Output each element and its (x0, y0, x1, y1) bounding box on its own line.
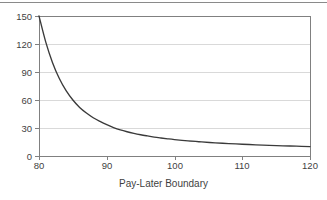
y-tick-marks-group (35, 17, 39, 157)
x-tick-label-110: 110 (227, 160, 257, 171)
x-axis-title: Pay-Later Boundary (0, 178, 327, 189)
y-tick-label-120: 120 (6, 39, 32, 50)
x-tick-label-100: 100 (160, 160, 190, 171)
x-tick-label-90: 90 (92, 160, 122, 171)
x-tick-label-120: 120 (295, 160, 325, 171)
y-tick-label-60: 60 (6, 95, 32, 106)
y-tick-label-30: 30 (6, 123, 32, 134)
y-tick-label-150: 150 (6, 11, 32, 22)
gridlines-group (39, 17, 310, 129)
y-tick-label-90: 90 (6, 67, 32, 78)
data-series-curve (39, 16, 310, 147)
chart-figure: 150 120 90 60 30 0 80 90 100 110 120 Pay… (0, 0, 327, 200)
x-tick-label-80: 80 (24, 160, 54, 171)
